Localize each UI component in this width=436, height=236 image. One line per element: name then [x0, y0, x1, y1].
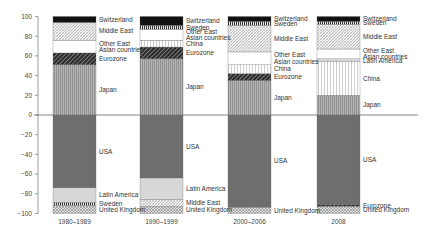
segment-label-japan: Japan	[274, 94, 292, 102]
segment-switzerland	[140, 17, 183, 26]
segment-label-usa: USA	[274, 157, 288, 164]
category-labels: 1980–19891990–19992000–20062008	[58, 218, 346, 225]
segment-label-other-east-asian-countries: Asian countries	[186, 34, 231, 41]
y-tick-label: 40	[25, 72, 33, 79]
y-tick-label: −40	[21, 151, 32, 158]
segment-middle-east	[317, 24, 360, 49]
segment-other-east-asian-countries	[228, 52, 271, 65]
segment-label-united-kingdom: United Kingdom	[186, 206, 232, 214]
segment-label-japan: Japan	[99, 86, 117, 94]
segment-usa	[140, 115, 183, 178]
segment-sweden	[317, 21, 360, 24]
segment-label-other-east-asian-countries: Asian countries	[99, 46, 144, 53]
y-tick-label: 100	[21, 13, 32, 20]
segment-united-kingdom	[317, 207, 360, 214]
segment-label-eurozone: Eurozone	[186, 49, 214, 56]
y-tick-label: −80	[21, 190, 32, 197]
chart-canvas: 100806040200−20−40−60−80−100 JapanEurozo…	[0, 0, 436, 236]
segment-label-other-east-asian-countries: Asian countries	[363, 53, 408, 60]
segment-label-eurozone: Eurozone	[274, 73, 302, 80]
segment-label-middle-east: Middle East	[363, 33, 397, 40]
x-category-label: 1990–1999	[145, 218, 178, 225]
stacked-bar-chart: 100806040200−20−40−60−80−100 JapanEurozo…	[0, 0, 436, 236]
segment-other-east-asian-countries	[140, 29, 183, 40]
segment-sweden	[53, 203, 96, 206]
bar-1980-1989	[53, 17, 96, 214]
bar-1990-1999	[140, 17, 183, 214]
segment-label-middle-east: Middle East	[99, 27, 133, 34]
y-tick-label: −60	[21, 170, 32, 177]
segment-japan	[140, 59, 183, 115]
segment-eurozone	[140, 47, 183, 59]
segment-japan	[228, 81, 271, 115]
segment-other-east-asian-countries	[317, 49, 360, 59]
segment-label-united-kingdom: United Kingdom	[99, 206, 145, 214]
segment-switzerland	[53, 17, 96, 23]
segment-sweden	[228, 21, 271, 25]
y-tick-label: 20	[25, 92, 33, 99]
segment-label-china: China	[274, 65, 291, 72]
segment-label-other-east-asian-countries: Asian countries	[274, 58, 319, 65]
segment-usa	[228, 115, 271, 208]
segment-label-switzerland: Switzerland	[186, 17, 220, 24]
segment-label-sweden: Sweden	[186, 24, 210, 31]
segment-middle-east	[140, 200, 183, 207]
segment-eurozone	[228, 74, 271, 81]
segment-china	[228, 65, 271, 74]
segment-label-usa: USA	[186, 143, 200, 150]
y-tick-label: −100	[17, 210, 32, 217]
segment-united-kingdom	[140, 207, 183, 214]
segment-china	[317, 62, 360, 95]
segment-sweden	[140, 25, 183, 29]
segment-label-china: China	[363, 75, 380, 82]
y-tick-label: −20	[21, 131, 32, 138]
y-tick-label: 0	[28, 111, 32, 118]
segment-label-united-kingdom: United Kingdom	[274, 207, 320, 215]
segment-label-japan: Japan	[363, 101, 381, 109]
bar-2000-2006	[228, 17, 271, 214]
x-category-label: 2000–2006	[233, 218, 266, 225]
segment-japan	[53, 65, 96, 115]
segment-label-usa: USA	[363, 156, 377, 163]
segment-label-middle-east: Middle East	[274, 35, 308, 42]
segment-label-latin-america: Latin America	[186, 185, 226, 192]
segment-middle-east	[53, 22, 96, 40]
segment-label-latin-america: Latin America	[99, 191, 139, 198]
segment-latin-america	[317, 59, 360, 62]
segment-label-united-kingdom: United Kingdom	[363, 206, 409, 214]
segment-other-east-asian-countries	[53, 40, 96, 53]
segment-label-switzerland: Switzerland	[99, 16, 133, 23]
segment-eurozone	[317, 205, 360, 207]
segment-japan	[317, 95, 360, 115]
x-category-label: 1980–1989	[58, 218, 91, 225]
segment-united-kingdom	[53, 206, 96, 214]
segment-eurozone	[53, 53, 96, 65]
segment-label-usa: USA	[99, 148, 113, 155]
segment-latin-america	[140, 178, 183, 200]
segment-usa	[53, 115, 96, 188]
segment-label-switzerland: Switzerland	[363, 15, 397, 22]
segment-switzerland	[317, 17, 360, 22]
segment-united-kingdom	[228, 208, 271, 214]
x-category-label: 2008	[331, 218, 346, 225]
segment-latin-america	[53, 188, 96, 203]
y-tick-label: 60	[25, 52, 33, 59]
segment-middle-east	[228, 25, 271, 52]
segment-china	[140, 40, 183, 47]
bar-2008	[317, 17, 360, 214]
segment-label-eurozone: Eurozone	[99, 55, 127, 62]
segment-switzerland	[228, 17, 271, 22]
segment-label-japan: Japan	[186, 83, 204, 91]
y-tick-label: 80	[25, 33, 33, 40]
segment-label-switzerland: Switzerland	[274, 15, 308, 22]
segment-usa	[317, 115, 360, 205]
